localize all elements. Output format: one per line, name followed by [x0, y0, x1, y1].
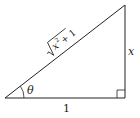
triangle-diagram: θ 1 x x 2 + 1	[0, 0, 140, 118]
angle-arc	[21, 86, 25, 98]
angle-label: θ	[27, 84, 34, 97]
hypotenuse-label: x 2 + 1	[42, 25, 78, 58]
adjacent-label: 1	[63, 102, 70, 115]
svg-text:+ 1: + 1	[59, 27, 78, 45]
right-angle-marker	[117, 90, 125, 98]
right-triangle	[5, 5, 125, 98]
opposite-label: x	[128, 45, 135, 58]
